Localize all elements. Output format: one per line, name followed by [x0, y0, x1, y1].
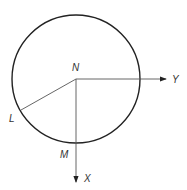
- label-n: N: [72, 62, 80, 73]
- label-l: L: [9, 113, 15, 124]
- label-m: M: [60, 149, 69, 160]
- radius-nl: [21, 79, 76, 110]
- label-x: X: [83, 173, 91, 184]
- label-y: Y: [172, 74, 180, 85]
- circle-diagram: N Y L M X: [0, 0, 187, 190]
